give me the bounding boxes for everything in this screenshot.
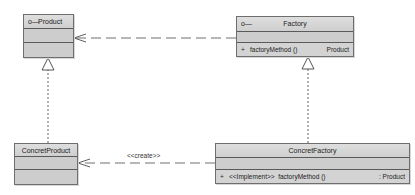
class-name: Product: [38, 15, 62, 28]
realization-concretfactory-to-factory: [302, 57, 314, 143]
class-factory[interactable]: o— Factory + factoryMethod () Product: [236, 16, 354, 57]
uml-class-diagram: o— Product o— Factory + factoryMethod ()…: [0, 0, 415, 195]
visibility-public: +: [241, 43, 245, 56]
class-concret-factory[interactable]: ConcretFactory + <<Implement>> factoryMe…: [215, 143, 410, 184]
realization-concretproduct-to-product: [42, 58, 54, 143]
operation-name: <<Implement>> factoryMethod (): [229, 170, 325, 183]
class-product[interactable]: o— Product: [23, 14, 74, 58]
class-name: ConcretProduct: [15, 144, 77, 157]
create-stereotype-label: <<create>>: [127, 152, 160, 159]
dependency-concretfactory-to-concretproduct: [78, 159, 215, 167]
class-concret-factory-header: ConcretFactory: [216, 144, 409, 158]
class-concret-factory-attributes: [216, 158, 409, 170]
class-product-header: o— Product: [24, 15, 73, 29]
class-product-operations: [24, 43, 73, 57]
class-name: Factory: [237, 17, 353, 30]
class-name: ConcretFactory: [216, 144, 409, 157]
class-concret-product-operations: [15, 170, 77, 184]
class-factory-header: o— Factory: [237, 17, 353, 32]
interface-lollipop-icon: o—: [241, 17, 252, 30]
dependency-factory-to-product: [74, 34, 236, 42]
class-factory-operations: + factoryMethod () Product: [237, 43, 353, 56]
class-product-attributes: [24, 29, 73, 43]
operation-return-type: Product: [327, 43, 349, 56]
class-concret-product-header: ConcretProduct: [15, 144, 77, 157]
class-concret-product-attributes: [15, 157, 77, 170]
class-concret-product[interactable]: ConcretProduct: [14, 143, 78, 185]
operation-return-type: : Product: [379, 170, 405, 183]
visibility-public: +: [220, 170, 224, 183]
class-concret-factory-operations: + <<Implement>> factoryMethod () : Produ…: [216, 170, 409, 183]
class-factory-attributes: [237, 32, 353, 43]
operation-name: factoryMethod (): [250, 43, 297, 56]
